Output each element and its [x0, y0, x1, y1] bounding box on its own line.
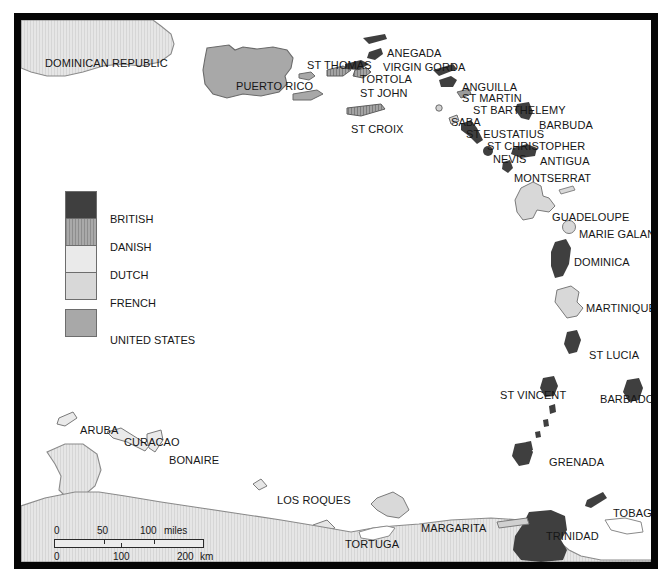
- scale-track: [54, 539, 204, 548]
- place-label-tortuga: TORTUGA: [345, 539, 399, 550]
- caribbean-map: BRITISH DANISH DUTCH FRENCH UNITED STATE…: [0, 0, 672, 582]
- landmass-grenadines-1: [549, 404, 556, 414]
- legend-label-danish: DANISH: [110, 241, 152, 253]
- map-landmass-layer: [21, 20, 651, 562]
- landmass-tobago: [585, 492, 607, 508]
- place-label-guadeloupe: GUADELOUPE: [552, 212, 629, 223]
- place-label-curacao: CURACAO: [124, 437, 180, 448]
- place-label-tobago: TOBAGO: [613, 508, 658, 519]
- place-label-barbuda: BARBUDA: [539, 120, 593, 131]
- place-label-st-john: ST JOHN: [360, 88, 408, 99]
- legend-swatch-danish: [65, 218, 97, 246]
- place-label-st-barthelemy: ST BARTHELEMY: [473, 105, 566, 116]
- landmass-paraguana: [47, 444, 101, 498]
- landmass-margarita: [371, 492, 409, 518]
- legend-swatch-british: [65, 191, 97, 219]
- legend-swatch-united-states: [65, 309, 97, 337]
- place-label-anegada: ANEGADA: [387, 48, 442, 59]
- legend-label-united-states: UNITED STATES: [110, 334, 195, 346]
- place-label-aruba: ARUBA: [80, 425, 118, 436]
- landmass-martinique: [555, 286, 583, 318]
- place-label-tortola: TORTOLA: [360, 74, 412, 85]
- place-label-dominican-republic: DOMINICAN REPUBLIC: [45, 58, 168, 69]
- place-label-barbados: BARBADOS: [600, 394, 658, 405]
- scale-miles-tick-100: 100: [140, 525, 157, 536]
- place-label-trinidad: TRINIDAD: [546, 531, 599, 542]
- scale-km-unit: km: [200, 551, 213, 562]
- place-label-bonaire: BONAIRE: [169, 455, 219, 466]
- place-label-montserrat: MONTSERRAT: [514, 173, 591, 184]
- landmass-anegada: [363, 34, 387, 44]
- place-label-st-croix: ST CROIX: [351, 124, 404, 135]
- landmass-dominica: [551, 239, 571, 278]
- place-label-st-eustatius: ST EUSTATIUS: [466, 129, 544, 140]
- landmass-grenadines-2: [543, 419, 549, 427]
- legend-swatch-stack: [65, 191, 97, 337]
- scale-km-tick-0: 0: [54, 551, 60, 562]
- place-label-virgin-gorda: VIRGIN GORDA: [383, 62, 466, 73]
- landmass-aruba: [57, 412, 77, 426]
- place-label-st-christopher: ST CHRISTOPHER: [487, 141, 585, 152]
- legend-label-dutch: DUTCH: [110, 269, 149, 281]
- place-label-los-roques: LOS ROQUES: [277, 495, 351, 506]
- legend-label-french: FRENCH: [110, 297, 156, 309]
- place-label-saba: SABA: [451, 117, 481, 128]
- scale-miles-tick-0: 0: [54, 525, 60, 536]
- landmass-saba: [436, 105, 442, 111]
- legend-swatch-french: [65, 272, 97, 300]
- legend-swatch-dutch: [65, 245, 97, 273]
- landmass-la-desirade: [559, 186, 575, 194]
- place-label-grenada: GRENADA: [549, 457, 604, 468]
- landmass-los-roques: [253, 479, 267, 490]
- landmass-st-lucia: [564, 330, 581, 354]
- place-label-puerto-rico: PUERTO RICO: [236, 81, 313, 92]
- landmass-st-martin: [439, 76, 457, 87]
- map-frame-border: BRITISH DANISH DUTCH FRENCH UNITED STATE…: [14, 13, 658, 569]
- scale-tick-mid-km: [121, 543, 122, 548]
- place-label-marie-galante: MARIE GALANTE: [579, 229, 658, 240]
- place-label-st-vincent: ST VINCENT: [500, 390, 566, 401]
- place-label-st-martin: ST MARTIN: [462, 93, 522, 104]
- scale-km-tick-100: 100: [113, 551, 130, 562]
- scale-km-tick-200: 200: [177, 551, 194, 562]
- landmass-guadeloupe: [515, 182, 555, 220]
- place-label-antigua: ANTIGUA: [540, 156, 590, 167]
- place-label-margarita: MARGARITA: [421, 523, 486, 534]
- place-label-st-thomas: ST THOMAS: [307, 60, 372, 71]
- landmass-vieques: [299, 72, 315, 80]
- scale-miles-unit: miles: [164, 525, 187, 536]
- place-label-dominica: DOMINICA: [574, 257, 630, 268]
- landmass-venezuela-east-bay: [605, 518, 643, 534]
- landmass-grenadines-3: [535, 431, 541, 438]
- scale-tick-mid-miles: [104, 540, 105, 544]
- place-label-st-lucia: ST LUCIA: [589, 350, 639, 361]
- legend-label-british: BRITISH: [110, 213, 153, 225]
- place-label-nevis: NEVIS: [493, 154, 527, 165]
- place-label-martinique: MARTINIQUE: [586, 303, 656, 314]
- landmass-st-croix: [347, 104, 385, 116]
- scale-miles-tick-50: 50: [97, 525, 108, 536]
- scale-tick-100-miles: [154, 540, 155, 544]
